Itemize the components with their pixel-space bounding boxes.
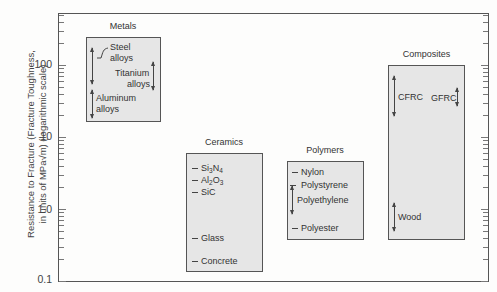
label-polyester: Polyester [301, 223, 339, 234]
y-tick-mark-right [481, 281, 488, 282]
y-tick-mark-right [483, 220, 488, 221]
marker-polyester [292, 228, 298, 229]
y-tick-mark-right [483, 238, 488, 239]
group-title-metals: Metals [86, 21, 160, 31]
range-arrow-titanium [153, 62, 154, 90]
y-tick-mark [59, 140, 64, 141]
label-cfrc: CFRC [398, 92, 423, 103]
leader-line-steel [96, 46, 110, 60]
marker-al2o3 [192, 180, 198, 181]
y-tick-01: 0.1 [22, 273, 52, 285]
y-tick-mark [59, 144, 64, 145]
y-tick-mark-right [483, 76, 488, 77]
range-arrow-wood [394, 203, 395, 231]
y-tick-mark-right [483, 153, 488, 154]
y-tick-mark-right [483, 225, 488, 226]
y-tick-mark-right [483, 175, 488, 176]
y-tick-mark-right [481, 209, 488, 210]
y-tick-mark [59, 220, 64, 221]
y-tick-mark [59, 238, 64, 239]
y-tick-mark-right [483, 216, 488, 217]
y-tick-mark [59, 231, 64, 232]
y-tick-mark [59, 81, 64, 82]
y-tick-mark-right [483, 94, 488, 95]
marker-glass [192, 238, 198, 239]
y-tick-mark [59, 259, 64, 260]
y-tick-mark-right [483, 87, 488, 88]
label-gfrc: GFRC [431, 93, 457, 104]
y-tick-mark-right [483, 166, 488, 167]
label-polystyrene: Polystyrene [301, 180, 348, 191]
label-steel-2: alloys [110, 53, 133, 64]
y-tick-mark [59, 166, 64, 167]
group-title-ceramics: Ceramics [186, 137, 262, 147]
label-nylon: Nylon [301, 167, 324, 178]
range-arrow-cfrc [394, 76, 395, 116]
y-tick-mark-right [481, 137, 488, 138]
y-tick-mark-right [483, 140, 488, 141]
y-tick-mark [59, 225, 64, 226]
y-tick-100: 100 [22, 58, 52, 70]
y-tick-mark-right [483, 103, 488, 104]
marker-sic [192, 192, 198, 193]
y-tick-mark [59, 22, 64, 23]
y-tick-10: 10 [22, 130, 52, 142]
label-concrete: Concrete [201, 256, 238, 267]
y-tick-mark [59, 216, 64, 217]
group-title-polymers: Polymers [287, 145, 363, 155]
y-tick-mark [59, 87, 64, 88]
y-tick-mark-right [483, 159, 488, 160]
y-tick-mark-right [483, 115, 488, 116]
y-tick-mark-right [483, 148, 488, 149]
y-tick-mark [59, 94, 64, 95]
y-tick-mark [59, 209, 66, 210]
y-tick-mark-right [483, 68, 488, 69]
label-titanium-1: Titanium [115, 68, 149, 79]
marker-concrete [192, 261, 198, 262]
y-tick-mark-right [483, 15, 488, 16]
range-arrow-steel [92, 48, 93, 84]
y-tick-mark-right [483, 81, 488, 82]
label-glass: Glass [201, 233, 224, 244]
range-arrow-aluminum [92, 90, 93, 118]
y-tick-mark-right [483, 31, 488, 32]
label-titanium-2: alloys [127, 79, 150, 90]
y-tick-mark-right [483, 187, 488, 188]
y-tick-mark [59, 72, 64, 73]
label-polyethylene: Polyethylene [297, 195, 349, 206]
y-tick-mark-right [481, 65, 488, 66]
y-tick-mark [59, 115, 64, 116]
y-tick-mark-right [483, 72, 488, 73]
y-tick-mark-right [483, 259, 488, 260]
marker-si3n4 [192, 168, 198, 169]
y-tick-mark [59, 43, 64, 44]
range-arrow-polyethylene [292, 186, 293, 214]
y-tick-mark-right [483, 43, 488, 44]
y-tick-mark [59, 153, 64, 154]
y-tick-1: 1.0 [22, 203, 52, 215]
y-tick-mark-right [483, 212, 488, 213]
y-tick-mark [59, 68, 64, 69]
label-wood: Wood [398, 212, 421, 223]
y-tick-mark [59, 76, 64, 77]
y-tick-mark [59, 65, 66, 66]
y-tick-mark [59, 159, 64, 160]
marker-nylon [292, 172, 298, 173]
y-tick-mark [59, 137, 66, 138]
y-tick-mark [59, 247, 64, 248]
y-tick-mark [59, 175, 64, 176]
y-tick-mark [59, 212, 64, 213]
y-tick-mark [59, 15, 64, 16]
label-aluminum-1: Aluminum [96, 93, 136, 104]
y-tick-mark [59, 103, 64, 104]
group-title-composites: Composites [388, 49, 465, 59]
y-tick-mark-right [483, 22, 488, 23]
label-sic: SiC [201, 187, 216, 198]
y-tick-mark-right [483, 144, 488, 145]
y-tick-mark [59, 148, 64, 149]
label-steel-1: Steel [110, 42, 131, 53]
label-aluminum-2: alloys [96, 104, 119, 115]
y-tick-mark [59, 31, 64, 32]
range-arrow-gfrc [457, 88, 458, 106]
y-tick-mark [59, 187, 64, 188]
